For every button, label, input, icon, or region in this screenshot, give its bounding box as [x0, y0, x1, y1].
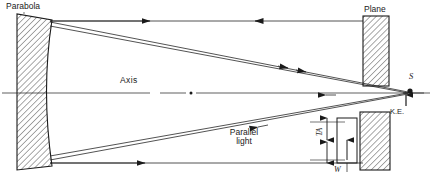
label-parallel-light: Parallel light [218, 128, 270, 146]
axis-midpoint-dot [190, 92, 193, 95]
label-parabola: Parabola [6, 2, 40, 11]
ta-dimension [310, 118, 345, 163]
label-transverse-aberration: TA [316, 128, 324, 136]
rays-converging-upper [50, 22, 408, 93]
label-wavefront: W [334, 166, 341, 174]
knife-edge-block [360, 112, 390, 170]
label-plane: Plane [364, 5, 386, 14]
plane-mirror [363, 16, 389, 86]
optical-axis [2, 92, 430, 95]
focus-point-s [403, 88, 424, 93]
optical-diagram [0, 0, 437, 180]
rays-converging-lower [50, 93, 408, 160]
figure-canvas: Parabola Plane Axis Parallel light S K.E… [0, 0, 437, 180]
wavefront-box [337, 118, 357, 172]
parabolic-mirror [17, 14, 52, 170]
label-source-point-s: S [409, 72, 413, 81]
label-axis: Axis [120, 76, 138, 85]
label-knife-edge: K.E. [390, 108, 404, 116]
